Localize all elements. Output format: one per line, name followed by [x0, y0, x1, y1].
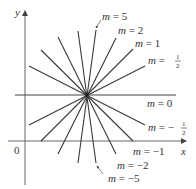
svg-text:1: 1: [182, 120, 186, 128]
label-m-neg-half: m = − 1 2: [148, 120, 187, 137]
slope-family-diagram: y x 0 m = 5 m = 2 m = 1 m = 1 2 m = 0 m …: [0, 0, 196, 189]
y-axis-label: y: [14, 6, 20, 18]
label-m-2: m = 2: [118, 24, 143, 36]
leader-arrow-m-5: [97, 166, 103, 174]
x-axis-label: x: [180, 145, 186, 157]
origin-label: 0: [14, 144, 20, 156]
leader-arrow-m5: [96, 20, 101, 28]
label-m-0: m = 0: [147, 97, 173, 109]
svg-text:m =: m =: [148, 54, 165, 66]
svg-text:1: 1: [176, 53, 180, 61]
label-m-half: m = 1 2: [148, 53, 181, 70]
svg-text:m = −: m = −: [148, 121, 174, 133]
label-m-1: m = 1: [135, 37, 160, 49]
label-m-5-pos: m = 5: [102, 10, 128, 22]
center-point: [85, 93, 89, 97]
svg-text:2: 2: [176, 62, 180, 70]
label-m-neg-1: m = −1: [133, 145, 164, 157]
label-m-neg-5: m = −5: [108, 172, 140, 184]
svg-text:2: 2: [182, 129, 186, 137]
label-m-neg-2: m = −2: [117, 159, 148, 171]
